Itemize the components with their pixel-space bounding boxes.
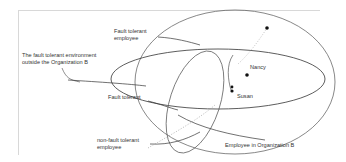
label-environment: The fault tolerant environment outside t…: [22, 52, 96, 66]
label-fault-tolerant-employee: Fault tolerant employee: [114, 28, 147, 42]
org-b-ellipse: [111, 49, 325, 109]
label-line: outside the Organization B: [22, 59, 96, 66]
label-nancy: Nancy: [250, 64, 266, 71]
dot-nancy: [245, 73, 249, 77]
leader-env-line: [68, 80, 146, 86]
label-line: employee: [114, 35, 147, 42]
label-fault-tolerant: Fault tolerant: [108, 94, 141, 101]
dotted-line-top: [238, 28, 267, 64]
leader-fault-tolerant: [148, 101, 178, 110]
label-line: The fault tolerant environment: [22, 52, 96, 59]
outer-ellipse-environment: [135, 10, 335, 154]
fault-tolerant-ellipse: [155, 44, 235, 160]
dot-susan-1: [231, 86, 234, 89]
dot-top: [265, 26, 269, 30]
label-non-fault-tolerant-employee: non-fault tolerant employee: [97, 137, 139, 151]
label-employee-org-b: Employee in Organization B: [225, 142, 294, 149]
label-susan: Susan: [237, 93, 253, 100]
label-line: non-fault tolerant: [97, 137, 139, 144]
venn-diagram: [0, 0, 346, 162]
dot-susan-2: [230, 89, 233, 92]
label-line: Fault tolerant: [114, 28, 147, 35]
leader-fault-tolerant-employee: [158, 37, 200, 45]
label-line: employee: [97, 144, 139, 151]
inner-curve: [228, 55, 233, 90]
